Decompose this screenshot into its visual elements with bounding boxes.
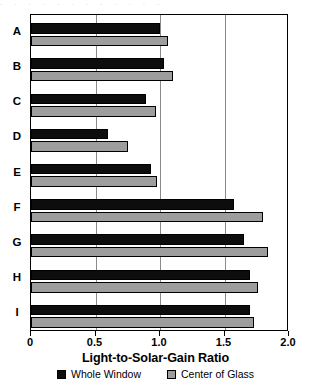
category-label-g: G <box>8 236 26 248</box>
bar-a-center-of-glass <box>31 36 168 47</box>
x-tick-label: 2.0 <box>268 336 308 348</box>
legend-swatch-icon <box>57 370 66 379</box>
bar-h-whole-window <box>31 270 250 281</box>
x-tick-label: 0.5 <box>75 336 115 348</box>
category-label-b: B <box>8 60 26 72</box>
category-label-i: I <box>8 306 26 318</box>
plot-area <box>30 14 288 331</box>
bar-group <box>31 15 287 50</box>
bar-group <box>31 297 287 332</box>
bar-group <box>31 121 287 156</box>
bar-a-whole-window <box>31 23 160 34</box>
top-edge-artifact: · · · · · · · · · · · · <box>0 0 311 9</box>
bar-b-center-of-glass <box>31 71 173 82</box>
legend-label: Center of Glass <box>181 368 254 380</box>
bar-f-whole-window <box>31 199 234 210</box>
bar-e-whole-window <box>31 164 151 175</box>
category-label-h: H <box>8 271 26 283</box>
chart-legend: Whole WindowCenter of Glass <box>0 368 311 380</box>
bar-group <box>31 85 287 120</box>
bar-c-whole-window <box>31 94 146 105</box>
bar-group-container <box>31 15 287 330</box>
bar-group <box>31 191 287 226</box>
bar-i-center-of-glass <box>31 317 254 328</box>
bar-group <box>31 156 287 191</box>
bar-f-center-of-glass <box>31 212 263 223</box>
bar-i-whole-window <box>31 305 250 316</box>
bar-c-center-of-glass <box>31 106 156 117</box>
bar-g-whole-window <box>31 234 244 245</box>
legend-item-whole-window: Whole Window <box>57 368 141 380</box>
bar-g-center-of-glass <box>31 247 268 258</box>
bar-group <box>31 226 287 261</box>
bar-d-center-of-glass <box>31 141 128 152</box>
bar-h-center-of-glass <box>31 282 258 293</box>
bar-d-whole-window <box>31 129 108 140</box>
category-label-a: A <box>8 25 26 37</box>
category-label-c: C <box>8 95 26 107</box>
legend-item-center-of-glass: Center of Glass <box>167 368 254 380</box>
bar-group <box>31 262 287 297</box>
bar-b-whole-window <box>31 58 164 69</box>
category-label-d: D <box>8 130 26 142</box>
category-label-f: F <box>8 201 26 213</box>
legend-label: Whole Window <box>71 368 141 380</box>
x-tick-label: 1.5 <box>204 336 244 348</box>
x-tick-label: 1.0 <box>139 336 179 348</box>
x-tick-label: 0 <box>10 336 50 348</box>
bar-e-center-of-glass <box>31 176 157 187</box>
category-label-e: E <box>8 166 26 178</box>
legend-swatch-icon <box>167 370 176 379</box>
bar-group <box>31 50 287 85</box>
x-axis-title: Light-to-Solar-Gain Ratio <box>0 351 311 365</box>
